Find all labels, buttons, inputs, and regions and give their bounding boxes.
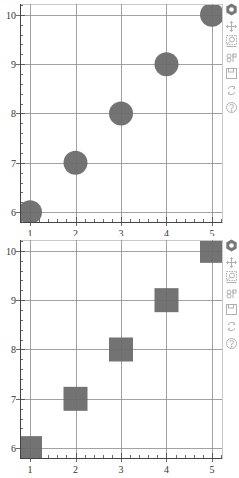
x-tick-label: 3 (119, 464, 124, 475)
x-tick-label: 4 (164, 464, 169, 475)
circle-scatter-plot[interactable]: 12345678910 (0, 0, 239, 236)
circle-marker (154, 52, 178, 76)
y-tick-label: 6 (11, 207, 16, 218)
pan-tool-button[interactable] (224, 256, 239, 270)
bokeh-logo-icon (224, 240, 239, 254)
x-tick-label: 1 (28, 464, 33, 475)
square-marker (18, 436, 42, 460)
reset-icon (226, 82, 237, 100)
box-zoom-tool-button[interactable] (224, 271, 239, 285)
x-tick-label: 2 (73, 464, 78, 475)
y-tick-label: 10 (6, 246, 16, 257)
y-tick-label: 9 (11, 59, 16, 70)
save-tool-button[interactable] (224, 67, 239, 81)
help-tool-button[interactable] (224, 101, 239, 115)
x-tick-label: 5 (209, 228, 214, 236)
square-marker (64, 387, 88, 411)
wheel-zoom-tool-button[interactable] (224, 287, 239, 301)
help-icon (226, 335, 237, 353)
x-tick-label: 1 (28, 228, 33, 236)
reset-tool-button[interactable] (224, 84, 239, 98)
wheel-zoom-tool-button[interactable] (224, 51, 239, 65)
box-zoom-tool-button[interactable] (224, 35, 239, 49)
y-tick-label: 6 (11, 443, 16, 454)
square-marker (154, 288, 178, 312)
save-icon (226, 301, 237, 319)
circle-marker (18, 200, 42, 224)
circle-marker (200, 3, 224, 27)
square-marker (109, 337, 133, 361)
y-tick-label: 7 (11, 158, 16, 169)
y-tick-label: 9 (11, 295, 16, 306)
save-tool-button[interactable] (224, 303, 239, 317)
y-tick-label: 10 (6, 10, 16, 21)
circle-marker (109, 101, 133, 125)
square-scatter-plot[interactable]: 12345678910 (0, 236, 239, 478)
plot-toolbar (224, 240, 239, 360)
pan-tool-button[interactable] (224, 20, 239, 34)
reset-icon (226, 318, 237, 336)
x-tick-label: 3 (119, 228, 124, 236)
y-tick-label: 8 (11, 108, 16, 119)
square-marker (200, 239, 224, 263)
save-icon (226, 65, 237, 83)
x-tick-label: 2 (73, 228, 78, 236)
help-tool-button[interactable] (224, 337, 239, 351)
help-icon (226, 99, 237, 117)
y-tick-label: 8 (11, 344, 16, 355)
bokeh-logo-icon (224, 4, 239, 18)
plot-toolbar (224, 4, 239, 124)
x-tick-label: 5 (209, 464, 214, 475)
circle-marker (64, 151, 88, 175)
y-tick-label: 7 (11, 394, 16, 405)
x-tick-label: 4 (164, 228, 169, 236)
reset-tool-button[interactable] (224, 320, 239, 334)
